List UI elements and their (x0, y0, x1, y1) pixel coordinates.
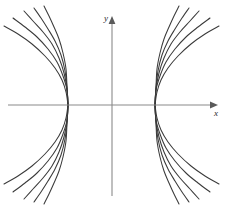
y-axis-arrowhead (109, 16, 116, 24)
hyperbola-branch (155, 105, 210, 192)
axis-label-layer: x y (103, 13, 218, 118)
hyperbola-branch (155, 8, 189, 105)
hyperbola-branch (34, 8, 68, 105)
axis-layer (8, 16, 218, 196)
hyperbola-branch (155, 6, 179, 105)
hyperbola-branch (44, 105, 68, 204)
hyperbola-branch (155, 18, 210, 105)
hyperbola-branch (13, 18, 68, 105)
y-axis-label: y (103, 13, 108, 23)
figure-container: x y (0, 0, 226, 206)
x-axis-label: x (213, 108, 218, 118)
hyperbola-branch (34, 105, 68, 202)
hyperbola-branch (155, 105, 179, 204)
hyperbola-family-plot: x y (0, 0, 226, 206)
hyperbola-branch (44, 6, 68, 105)
hyperbola-branch (155, 105, 189, 202)
hyperbola-branch (13, 105, 68, 192)
